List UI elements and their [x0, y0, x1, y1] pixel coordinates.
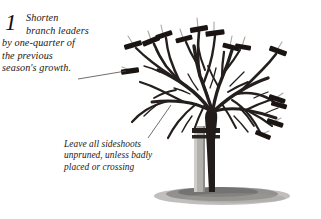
caption-two-line-3: placed or crossing: [64, 162, 172, 173]
branch-network: [132, 32, 278, 138]
step-number: 1: [2, 12, 20, 33]
caption-one-line-4: the previous: [2, 50, 110, 63]
caption-two-line-1: Leave all sideshoots: [64, 139, 172, 150]
caption-leave-sideshoots: Leave all sideshoots unpruned, unless ba…: [64, 139, 172, 173]
tree-trunk: [205, 108, 217, 192]
caption-shorten-branch-leaders: 1 Shorten branch leaders by one-quarter …: [2, 12, 110, 75]
caption-one-line-1: Shorten: [26, 12, 110, 25]
cut-stubs: [122, 18, 285, 134]
pruning-diagram: 1 Shorten branch leaders by one-quarter …: [0, 0, 321, 219]
caption-one-line-3: by one-quarter of: [2, 37, 110, 50]
caption-two-line-2: unpruned, unless badly: [64, 150, 172, 161]
caption-one-line-5: season's growth.: [2, 62, 110, 75]
ground-shadow: [154, 187, 290, 205]
caption-one-line-2: branch leaders: [26, 25, 110, 38]
